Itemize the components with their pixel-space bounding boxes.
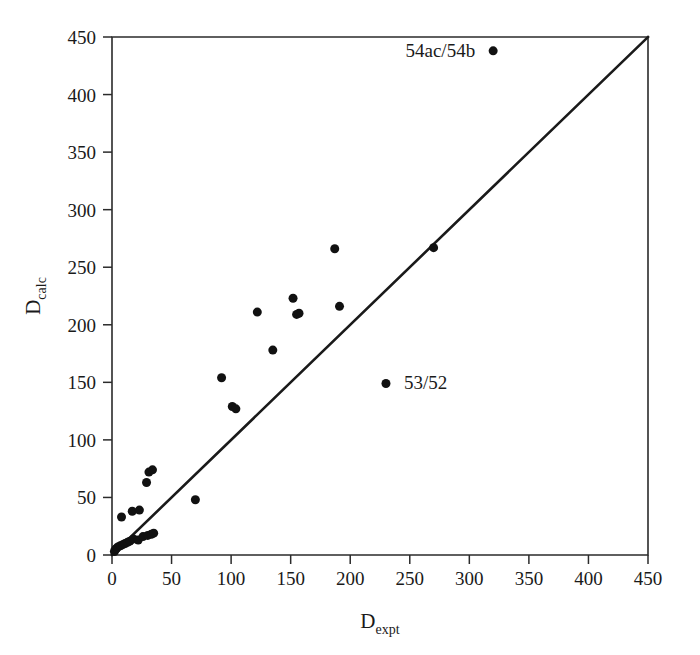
axis-title-subscript: expt — [376, 622, 400, 637]
x-tick-label-200: 200 — [336, 568, 365, 589]
data-point — [330, 244, 339, 253]
x-axis-title: Dexpt — [360, 609, 399, 637]
x-tick-label-100: 100 — [217, 568, 246, 589]
x-tick-label-300: 300 — [455, 568, 484, 589]
identity-line — [112, 37, 648, 555]
point-annotations: 54ac/54b53/52 — [404, 40, 475, 394]
data-point — [191, 495, 200, 504]
y-tick-label-0: 0 — [87, 545, 97, 566]
y-axis-ticks — [103, 37, 112, 555]
data-point — [148, 465, 157, 474]
identity-reference-line — [112, 37, 648, 555]
y-axis-title: Dcalc — [21, 277, 49, 315]
x-tick-label-400: 400 — [574, 568, 603, 589]
annotation-label: 53/52 — [404, 372, 447, 393]
data-point — [231, 404, 240, 413]
scatter-plot-figure: 050100150200250300350400450 050100150200… — [0, 0, 700, 655]
y-tick-label-450: 450 — [68, 27, 97, 48]
x-tick-label-0: 0 — [107, 568, 117, 589]
x-axis-ticks — [112, 555, 648, 564]
svg-text:Dexpt: Dexpt — [360, 609, 399, 637]
svg-text:Dcalc: Dcalc — [21, 277, 49, 315]
y-tick-label-150: 150 — [68, 372, 97, 393]
data-point — [429, 243, 438, 252]
y-tick-label-50: 50 — [77, 487, 96, 508]
axis-title-subscript: calc — [34, 277, 49, 300]
data-point — [381, 379, 390, 388]
x-tick-label-450: 450 — [634, 568, 663, 589]
data-point — [335, 302, 344, 311]
data-point — [289, 294, 298, 303]
x-tick-label-150: 150 — [276, 568, 305, 589]
annotation-label: 54ac/54b — [405, 40, 475, 61]
axis-title-base: D — [21, 300, 45, 315]
data-point — [295, 309, 304, 318]
data-point — [149, 529, 158, 538]
y-axis-tick-labels: 050100150200250300350400450 — [68, 27, 97, 566]
x-axis-tick-labels: 050100150200250300350400450 — [107, 568, 662, 589]
y-tick-label-100: 100 — [68, 430, 97, 451]
data-point — [489, 46, 498, 55]
data-point-series — [110, 46, 498, 556]
data-point — [268, 346, 277, 355]
data-point — [253, 308, 262, 317]
data-point — [117, 513, 126, 522]
data-point — [135, 506, 144, 515]
y-tick-label-350: 350 — [68, 142, 97, 163]
x-tick-label-250: 250 — [396, 568, 425, 589]
data-point — [217, 373, 226, 382]
axis-title-base: D — [360, 609, 375, 633]
x-tick-label-50: 50 — [162, 568, 181, 589]
plot-canvas: 050100150200250300350400450 050100150200… — [0, 0, 700, 655]
y-tick-label-400: 400 — [68, 85, 97, 106]
y-tick-label-200: 200 — [68, 315, 97, 336]
y-tick-label-250: 250 — [68, 257, 97, 278]
data-point — [142, 478, 151, 487]
x-tick-label-350: 350 — [515, 568, 544, 589]
y-tick-label-300: 300 — [68, 200, 97, 221]
